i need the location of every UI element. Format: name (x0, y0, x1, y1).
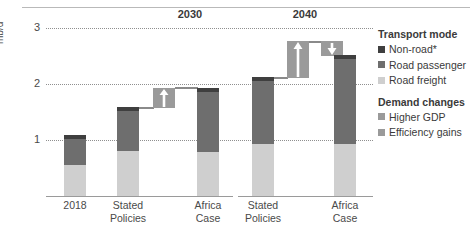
x-tick-2040-stated-line2: Policies (238, 212, 288, 225)
x-tick-2018: 2018 (50, 199, 100, 212)
legend-swatch-efficiency-gains-icon (378, 129, 385, 136)
x-tick-2040-stated-line1: Stated (238, 199, 288, 212)
x-tick-2040-africa-case: Africa Case (320, 199, 370, 225)
x-axis-line-2040 (238, 196, 373, 197)
bar-2030-stated-non-road (117, 107, 139, 111)
legend-label-higher-gdp: Higher GDP (389, 112, 446, 123)
arrow-up-2030-higher-gdp (159, 89, 169, 107)
bar-2030-stated-road-passenger (117, 111, 139, 151)
legend-group-title-demand-changes: Demand changes (378, 96, 474, 108)
connector-2030-stated-to-gdp (139, 107, 154, 109)
group-header-2030: 2030 (150, 8, 230, 20)
gridline-3 (46, 28, 373, 29)
legend-label-non-road: Non-road* (389, 44, 437, 55)
legend-item-non-road[interactable]: Non-road* (378, 44, 474, 55)
bar-2018-road-freight (64, 165, 86, 196)
legend-label-road-passenger: Road passenger (389, 60, 466, 71)
bar-2030-africa-road-freight (197, 152, 219, 196)
x-axis-line-2030 (46, 196, 233, 197)
connector-2040-stated-to-gdp (274, 77, 288, 79)
bar-2018-road-passenger (64, 139, 86, 165)
bar-2030-stated-road-freight (117, 151, 139, 196)
legend-item-higher-gdp[interactable]: Higher GDP (378, 112, 474, 123)
legend-item-road-freight[interactable]: Road freight (378, 75, 474, 86)
x-tick-2030-africa-line1: Africa (183, 199, 233, 212)
connector-gdp-to-2030-africa (175, 87, 198, 89)
legend-item-road-passenger[interactable]: Road passenger (378, 60, 474, 71)
x-tick-2018-line1: 2018 (50, 199, 100, 212)
x-tick-2040-africa-line1: Africa (320, 199, 370, 212)
legend-swatch-road-passenger-icon (378, 61, 385, 68)
x-tick-2030-stated-line2: Policies (103, 212, 153, 225)
chart-figure: mb/d 3 2 1 2030 2040 (0, 0, 475, 240)
gridline-2 (46, 84, 373, 85)
bar-2030-africa-road-passenger (197, 92, 219, 152)
legend-label-efficiency-gains: Efficiency gains (389, 127, 462, 138)
legend-group-title-transport-mode: Transport mode (378, 28, 474, 40)
legend-swatch-road-freight-icon (378, 77, 385, 84)
bar-2040-africa-non-road (334, 55, 356, 59)
y-tick-3: 3 (22, 22, 40, 33)
x-tick-2040-stated-policies: Stated Policies (238, 199, 288, 225)
arrow-up-2040-higher-gdp (293, 42, 303, 77)
group-header-2040: 2040 (265, 8, 345, 20)
bar-2018-non-road (64, 135, 86, 139)
y-axis-label: mb/d (0, 22, 5, 44)
arrow-down-2040-efficiency-gains (327, 43, 337, 55)
y-tick-1: 1 (22, 134, 40, 145)
bar-2040-africa-road-freight (334, 144, 356, 196)
bar-2040-stated-non-road (252, 77, 274, 81)
bar-2040-stated-road-passenger (252, 81, 274, 144)
bar-2030-africa-non-road (197, 88, 219, 92)
chart-legend: Transport mode Non-road* Road passenger … (378, 28, 474, 143)
y-tick-2: 2 (22, 78, 40, 89)
legend-item-efficiency-gains[interactable]: Efficiency gains (378, 127, 474, 138)
legend-label-road-freight: Road freight (389, 75, 446, 86)
x-tick-2030-africa-line2: Case (183, 212, 233, 225)
legend-swatch-higher-gdp-icon (378, 113, 385, 120)
x-tick-2030-stated-line1: Stated (103, 199, 153, 212)
legend-swatch-non-road-icon (378, 46, 385, 53)
x-tick-2030-africa-case: Africa Case (183, 199, 233, 225)
bar-2040-africa-road-passenger (334, 59, 356, 144)
x-tick-2030-stated-policies: Stated Policies (103, 199, 153, 225)
x-tick-2040-africa-line2: Case (320, 212, 370, 225)
bar-2040-stated-road-freight (252, 144, 274, 196)
